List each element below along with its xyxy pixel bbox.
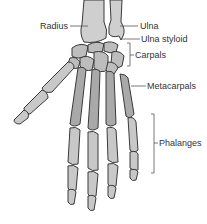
label-metacarpals: Metacarpals bbox=[147, 81, 196, 91]
label-ulna: Ulna bbox=[140, 21, 159, 31]
label-radius: Radius bbox=[40, 21, 68, 31]
distal-phalanges bbox=[68, 169, 138, 210]
metacarpal-bones bbox=[70, 67, 134, 130]
label-ulna-styloid: Ulna styloid bbox=[141, 34, 188, 44]
label-carpals: Carpals bbox=[135, 50, 166, 60]
label-phalanges: Phalanges bbox=[159, 138, 202, 148]
radius-bone bbox=[81, 0, 107, 43]
thumb-bones bbox=[14, 62, 74, 124]
phalanges-bracket bbox=[151, 114, 154, 173]
ulna-bone bbox=[109, 0, 124, 40]
carpals-bracket bbox=[127, 43, 130, 66]
proximal-phalanges bbox=[68, 118, 138, 171]
